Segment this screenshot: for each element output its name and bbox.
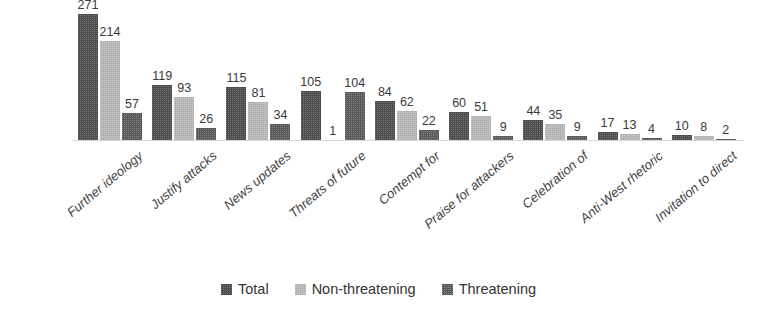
- category-axis-line: [72, 140, 744, 141]
- bar-non-threatening[interactable]: [100, 41, 120, 140]
- category-axis-labels: Further ideologyJustify attacksNews upda…: [0, 146, 757, 266]
- bar-value-label: 44: [526, 105, 540, 118]
- legend-swatch-icon: [295, 284, 306, 295]
- bar-threatening[interactable]: [419, 130, 439, 140]
- bar-value-label: 60: [452, 97, 466, 110]
- bar-threatening[interactable]: [196, 128, 216, 140]
- legend-swatch-icon: [221, 284, 232, 295]
- bar-value-label: 119: [152, 70, 172, 83]
- bar-value-label: 9: [500, 121, 507, 134]
- bar-threatening[interactable]: [122, 113, 142, 140]
- bar-value-label: 9: [574, 121, 581, 134]
- legend-label: Threatening: [459, 281, 536, 297]
- bar-slot: 2: [716, 14, 736, 140]
- bar-value-label: 22: [422, 115, 436, 128]
- bar-value-label: 57: [125, 98, 139, 111]
- bar-slot: 214: [100, 14, 120, 140]
- bar-slot: 57: [122, 14, 142, 140]
- bar-slot: 9: [567, 14, 587, 140]
- bar-chart: 2712145711993261158134105110484622260519…: [0, 0, 757, 320]
- bar-slot: 271: [78, 14, 98, 140]
- legend-swatch-icon: [442, 284, 453, 295]
- bar-value-label: 81: [251, 87, 265, 100]
- bar-threatening[interactable]: [270, 124, 290, 140]
- bar-value-label: 84: [378, 86, 392, 99]
- bar-value-label: 271: [78, 0, 99, 11]
- bar-value-label: 105: [300, 76, 321, 89]
- bar-value-label: 26: [199, 113, 213, 126]
- bar-total[interactable]: [78, 14, 98, 140]
- bar-value-label: 115: [226, 72, 246, 85]
- bar-slot: 22: [419, 14, 439, 140]
- bar-value-label: 104: [344, 77, 365, 90]
- bar-value-label: 4: [648, 123, 655, 136]
- bar-group: 27121457: [78, 14, 142, 140]
- bar-slot: 34: [270, 14, 290, 140]
- legend-item-total[interactable]: Total: [221, 281, 269, 297]
- bar-slot: 104: [345, 14, 365, 140]
- bar-slot: 4: [642, 14, 662, 140]
- legend-item-threatening[interactable]: Threatening: [442, 281, 536, 297]
- bar-value-label: 214: [100, 26, 121, 39]
- bar-slot: 9: [493, 14, 513, 140]
- legend-item-non-threatening[interactable]: Non-threatening: [295, 281, 416, 297]
- legend-label: Total: [238, 281, 269, 297]
- bar-slot: 26: [196, 14, 216, 140]
- bar-value-label: 93: [177, 82, 191, 95]
- bar-value-label: 2: [722, 124, 729, 137]
- legend-label: Non-threatening: [312, 281, 416, 297]
- chart-legend: TotalNon-threateningThreatening: [0, 281, 757, 297]
